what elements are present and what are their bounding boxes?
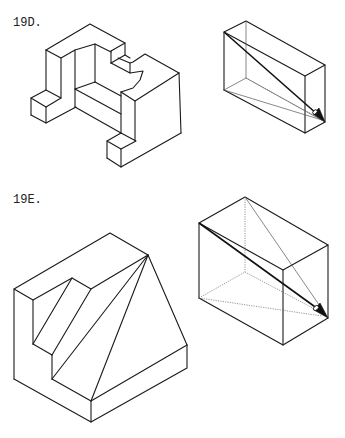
figure-19e-view-arrow [199,223,328,318]
figure-19d-object [31,24,181,167]
figure-19e-view-box [199,197,328,345]
figure-19e-object [14,233,187,422]
drawing-canvas [0,0,345,438]
figure-19d-view-arrow [224,32,325,122]
